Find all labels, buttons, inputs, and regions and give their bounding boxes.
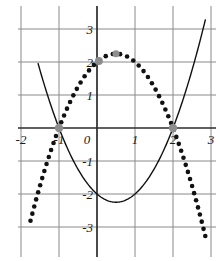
x-tick-label: 0 xyxy=(84,133,91,146)
curve-dot xyxy=(62,113,67,118)
marker-root-left xyxy=(55,124,63,132)
curve-dot xyxy=(192,191,197,196)
x-tick-label: -2 xyxy=(16,133,27,146)
curve-dot xyxy=(78,80,83,85)
y-tick-label: 1 xyxy=(87,89,94,102)
curve-dot xyxy=(176,142,181,147)
curve-dot xyxy=(68,100,73,105)
curve-dot xyxy=(190,184,195,189)
curve-dot xyxy=(136,63,141,68)
curve-dot xyxy=(103,54,108,59)
curve-dot xyxy=(196,205,201,210)
y-tick-label: 3 xyxy=(87,23,94,36)
curve-dot xyxy=(141,69,146,74)
curve-dot xyxy=(36,190,41,195)
curve-dot xyxy=(30,211,35,216)
x-tick-label: 3 xyxy=(208,133,215,146)
y-tick-label: -1 xyxy=(82,155,93,168)
curve-dot xyxy=(188,177,193,182)
curve-dot xyxy=(183,163,188,168)
curve-dot xyxy=(146,75,151,80)
curve-dot xyxy=(186,170,191,175)
curve-dot xyxy=(150,81,155,86)
curve-dot xyxy=(179,149,184,154)
marker-vertex-peak xyxy=(112,50,119,57)
curve-dot xyxy=(34,197,39,202)
plot-canvas xyxy=(0,0,220,261)
curve-layer xyxy=(38,20,205,202)
curve-dot xyxy=(153,87,158,92)
curve-dot xyxy=(157,94,162,99)
grid-layer xyxy=(18,6,216,257)
x-tick-label: -1 xyxy=(54,133,65,146)
axis-layer xyxy=(18,6,216,257)
curve-dot xyxy=(131,58,136,63)
curve-dot xyxy=(203,234,208,239)
y-tick-label: 2 xyxy=(87,56,94,69)
y-tick-label: -2 xyxy=(82,188,93,201)
curve-dot xyxy=(44,162,49,167)
curve-dot xyxy=(199,219,204,224)
curve-dot xyxy=(28,219,33,224)
curve-dot xyxy=(166,114,171,119)
curve-dot xyxy=(198,212,203,217)
x-tick-label: 1 xyxy=(132,133,139,146)
curve-dot xyxy=(201,227,206,232)
curve-dot xyxy=(194,198,199,203)
curve-dot xyxy=(46,155,51,160)
curve-dot xyxy=(42,169,47,174)
curve-dot xyxy=(71,93,76,98)
curve-dot xyxy=(40,176,45,181)
curve-dot xyxy=(82,74,87,79)
curve-dot xyxy=(38,183,43,188)
x-tick-label: 2 xyxy=(170,133,177,146)
curve-dot xyxy=(160,100,165,105)
marker-root-right xyxy=(169,124,177,132)
y-tick-label: -3 xyxy=(82,221,93,234)
marker-y-intercept xyxy=(95,57,103,65)
graph-figure: -2-10123 321-1-2-3 xyxy=(0,0,220,261)
solid-parabola-curve xyxy=(38,20,205,202)
curve-dot xyxy=(49,148,54,153)
curve-dot xyxy=(65,106,70,111)
curve-dot xyxy=(125,54,130,59)
curve-dot xyxy=(32,204,37,209)
curve-dot xyxy=(181,156,186,161)
curve-dot xyxy=(75,87,80,92)
curve-dot xyxy=(163,107,168,112)
